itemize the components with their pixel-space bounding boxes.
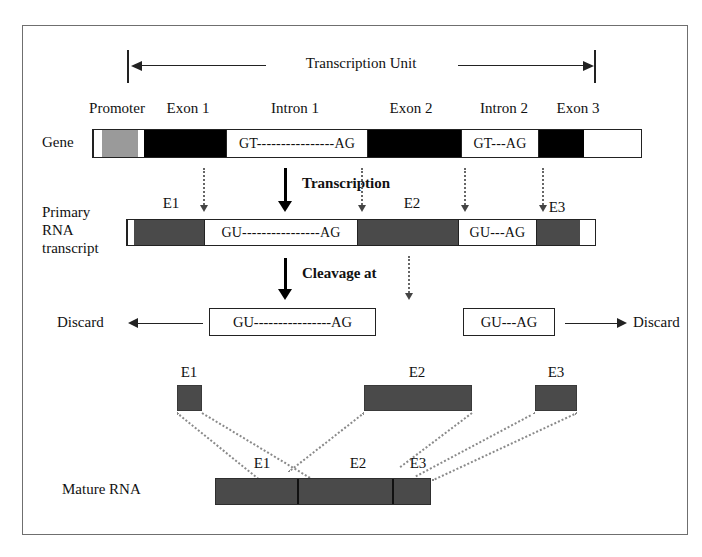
cleavage-arrow — [274, 258, 296, 300]
primary-rna-bar: GU----------------AG GU---AG — [126, 219, 596, 246]
gene-label-intron-1: Intron 1 — [271, 101, 319, 117]
mature-rna-label-e1: E1 — [254, 456, 271, 472]
cleavage-process-label: Cleavage at — [302, 266, 377, 282]
splice-site-dotted-arrow-2 — [357, 168, 367, 212]
primary-rna-label-line-1: Primary — [42, 205, 90, 221]
transcription-unit-left-tick — [127, 50, 129, 83]
gene-segment-promoter — [102, 130, 138, 157]
gene-row-label: Gene — [42, 135, 74, 151]
transcription-unit-line-right — [458, 65, 584, 66]
discarded-intron-2-box: GU---AG — [463, 308, 555, 336]
mature-rna-divider-e1-e2 — [297, 479, 299, 504]
transcription-unit-label: Transcription Unit — [306, 56, 417, 72]
mature-rna-bar — [215, 478, 431, 505]
free-exon-label-e2: E2 — [409, 365, 426, 381]
free-exon-label-e1: E1 — [181, 365, 198, 381]
gene-label-intron-2: Intron 2 — [480, 101, 528, 117]
gene-label-exon-1: Exon 1 — [167, 101, 210, 117]
gene-segment-exon-1 — [144, 130, 226, 157]
rna-exon-label-e2: E2 — [404, 196, 421, 212]
discarded-intron-1-box: GU----------------AG — [209, 308, 376, 336]
mature-rna-label: Mature RNA — [62, 482, 141, 498]
primary-rna-right-cap — [595, 219, 597, 246]
gene-label-exon-2: Exon 2 — [390, 101, 433, 117]
cleavage-dotted-arrow — [404, 256, 414, 300]
discard-left-arrow — [128, 318, 203, 328]
free-exon-block-e3 — [535, 385, 577, 411]
mature-rna-label-e2: E2 — [350, 456, 367, 472]
mature-rna-label-e3: E3 — [410, 456, 427, 472]
transcription-arrow — [274, 168, 296, 212]
gene-segment-exon-3 — [539, 130, 584, 157]
splice-site-dotted-arrow-1 — [199, 168, 209, 212]
primary-rna-label-line-3: transcript — [42, 241, 99, 257]
gene-segment-exon-2 — [368, 130, 461, 157]
discard-right-label: Discard — [633, 315, 680, 331]
rna-exon-label-e1: E1 — [163, 196, 180, 212]
transcription-process-label: Transcription — [302, 176, 390, 192]
gene-segment-intron-2: GT---AG — [461, 130, 539, 157]
gene-label-exon-3: Exon 3 — [557, 101, 600, 117]
transcription-unit-right-arrowhead — [583, 61, 594, 71]
splice-site-dotted-arrow-3 — [460, 168, 470, 212]
transcription-unit-right-tick — [594, 50, 596, 83]
primary-rna-left-cap — [126, 219, 128, 246]
rna-segment-exon-2 — [358, 220, 458, 245]
figure-canvas: Transcription Unit Promoter Exon 1 Intro… — [0, 0, 702, 557]
gene-bar-right-cap — [641, 129, 643, 158]
free-exon-label-e3: E3 — [548, 365, 565, 381]
discard-right-arrow — [565, 318, 627, 328]
rna-segment-exon-1 — [134, 220, 204, 245]
free-exon-block-e1 — [177, 385, 202, 411]
rna-segment-intron-2: GU---AG — [458, 220, 537, 245]
splice-site-dotted-arrow-4 — [538, 168, 548, 212]
rna-segment-exon-3 — [537, 220, 580, 245]
primary-rna-label-line-2: RNA — [42, 223, 74, 239]
gene-bar-left-cap — [92, 129, 94, 158]
gene-label-promoter: Promoter — [89, 101, 145, 117]
mature-rna-divider-e2-e3 — [392, 479, 394, 504]
discard-left-label: Discard — [57, 315, 104, 331]
transcription-unit-line-left — [141, 65, 266, 66]
rna-segment-intron-1: GU----------------AG — [204, 220, 358, 245]
gene-bar: GT----------------AG GT---AG — [92, 129, 642, 158]
gene-segment-intron-1: GT----------------AG — [226, 130, 368, 157]
free-exon-block-e2 — [364, 385, 472, 411]
rna-exon-label-e3: E3 — [549, 200, 566, 216]
